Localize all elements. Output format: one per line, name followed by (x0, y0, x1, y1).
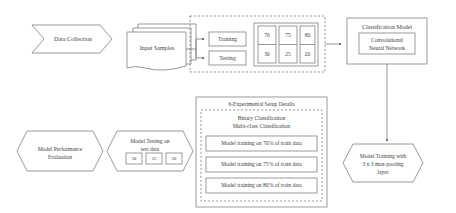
split-col-3-test: 20 (300, 48, 315, 60)
model-performance-line1: Model Performance (27, 145, 93, 153)
model-training-line2: 3 x 3 max-pooling (353, 160, 413, 168)
setup-row-3: Model training on 80% of train data (206, 178, 317, 193)
methodology-diagram: Data Collection Input Samples Training T… (0, 0, 456, 213)
split-col-3-train: 80 (300, 29, 315, 41)
setup-subtitle-line2: Multi-class Classification (201, 122, 322, 130)
input-samples-label: Input Samples (129, 42, 185, 54)
testing-label: Testing (209, 51, 246, 65)
setup-row-1: Model training on 70% of train data (206, 136, 317, 151)
split-col-1-train: 70 (258, 29, 276, 41)
model-performance-line2: Evaluation (27, 153, 93, 161)
model-testing-line2: test data (117, 145, 183, 153)
model-testing-value-2: 25 (146, 153, 162, 164)
split-col-2-train: 75 (279, 29, 297, 41)
training-label: Training (209, 32, 246, 46)
model-testing-line1: Model Testing on (117, 137, 183, 145)
cnn-label-line1: Convolutional (359, 36, 415, 44)
model-testing-value-1: 30 (126, 153, 142, 164)
setup-subtitle-line1: Binary Classification (201, 114, 322, 122)
data-collection-label: Data Collection (44, 33, 102, 45)
experimental-setup-title: 6-Experimental Setup Details (196, 99, 327, 109)
setup-row-2: Model training on 75% of train data (206, 157, 317, 172)
classification-model-label: Classification Model (347, 22, 427, 32)
cnn-label-line2: Neural Network (359, 44, 415, 52)
split-col-2-test: 25 (279, 48, 297, 60)
model-training-line1: Model Training with (353, 152, 413, 160)
model-testing-value-3: 20 (166, 153, 182, 164)
split-col-1-test: 30 (258, 48, 276, 60)
model-training-line3: layer (353, 168, 413, 176)
